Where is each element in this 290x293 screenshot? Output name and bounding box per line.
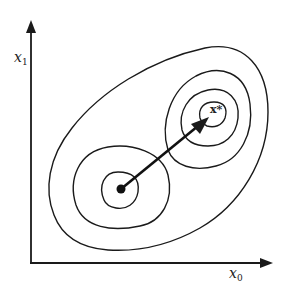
y-axis-arrowhead-icon: [26, 20, 36, 33]
x-axis-label: x0: [229, 266, 243, 283]
y-axis-label-var: x: [14, 49, 22, 65]
contour-diagram: [0, 0, 290, 293]
descent-arrow-shaft: [121, 126, 198, 189]
y-axis-label-sub: 1: [22, 57, 28, 67]
outer-contour: [49, 47, 268, 251]
optimum-label: x*: [210, 104, 222, 115]
start-point-dot: [117, 185, 126, 194]
x-axis-arrowhead-icon: [260, 258, 273, 268]
x-axis-label-var: x: [229, 265, 237, 281]
right-basin-middle-ring: [181, 89, 238, 146]
x-axis-label-sub: 0: [237, 273, 243, 283]
y-axis-label: x1: [14, 50, 28, 67]
